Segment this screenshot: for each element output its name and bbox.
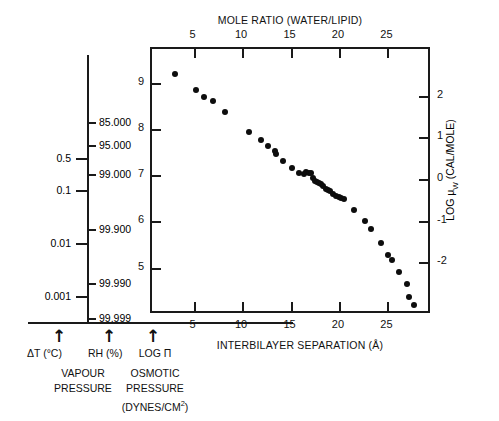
y2-axis-tick — [419, 262, 428, 264]
right-axis-title-unit: (CAL/MOLE) — [444, 119, 456, 182]
y-axis-tick — [152, 83, 161, 85]
y2-axis-tick-label: -2 — [437, 255, 447, 266]
osmotic-axis-name: LOG Π — [108, 347, 202, 360]
data-point — [246, 129, 252, 135]
vapour-pressure-baseline — [28, 322, 293, 324]
data-point — [404, 281, 410, 287]
data-point — [193, 87, 199, 93]
y-axis-tick — [152, 129, 161, 131]
y2-axis-tick-label: 0 — [437, 172, 443, 183]
x-axis-tick-label: 25 — [380, 319, 392, 330]
rh-tick — [87, 122, 96, 124]
data-point — [265, 143, 271, 149]
data-point — [273, 151, 279, 157]
data-point — [280, 158, 286, 164]
x2-axis-tick-label: 5 — [190, 29, 196, 40]
delta-t-tick-label: 0.01 — [51, 238, 71, 249]
data-point — [258, 137, 264, 143]
data-point — [406, 294, 412, 300]
osmotic-units-suffix: ) — [185, 401, 189, 413]
x2-axis-tick — [194, 49, 196, 58]
data-point — [222, 109, 228, 115]
rh-tick-label: 99.900 — [99, 224, 131, 235]
x-axis-tick — [291, 302, 293, 311]
y-axis-tick — [152, 175, 161, 177]
delta-t-tick-label: 0.001 — [45, 291, 71, 302]
rh-arrow-icon: ↑ — [98, 328, 120, 346]
delta-t-tick-label: 0.1 — [56, 185, 71, 196]
rh-tick — [87, 229, 96, 231]
data-point — [210, 98, 216, 104]
delta-t-tick — [76, 243, 87, 245]
y-axis-tick-label: 5 — [138, 261, 144, 272]
y2-axis-tick — [419, 96, 428, 98]
y2-axis-tick-label: 2 — [437, 89, 443, 100]
y2-axis-tick — [419, 137, 428, 139]
figure-root: 85.000 95.000 99.000 99.900 99.990 99.99… — [0, 0, 499, 421]
y-axis-tick-label: 8 — [138, 122, 144, 133]
rh-tick — [87, 318, 96, 320]
data-point — [389, 257, 395, 263]
y-axis-tick — [152, 221, 161, 223]
x-axis-tick-label: 20 — [332, 319, 344, 330]
x-axis-tick-label: 15 — [283, 319, 295, 330]
rh-tick — [87, 145, 96, 147]
rh-tick-label: 99.999 — [99, 313, 131, 324]
x2-axis-tick-label: 15 — [283, 29, 295, 40]
x-axis-tick-label: 5 — [190, 319, 196, 330]
x2-axis-tick-label: 10 — [235, 29, 247, 40]
x2-axis-tick — [242, 49, 244, 58]
rh-tick-label: 85.000 — [99, 117, 131, 128]
x2-axis-tick-label: 25 — [380, 29, 392, 40]
y2-axis-tick-label: 1 — [437, 130, 443, 141]
y2-axis-tick-label: -1 — [437, 214, 447, 225]
delta-t-tick — [76, 158, 87, 160]
x-axis-tick — [339, 302, 341, 311]
data-point — [172, 71, 178, 77]
data-point — [368, 226, 374, 232]
data-point — [341, 196, 347, 202]
x-axis-tick-label: 10 — [235, 319, 247, 330]
x2-axis-tick — [387, 49, 389, 58]
top-axis-title: MOLE RATIO (WATER/LIPID) — [218, 14, 363, 26]
x2-axis-tick — [291, 49, 293, 58]
x2-axis-tick-label: 20 — [332, 29, 344, 40]
y-axis-tick-label: 9 — [138, 76, 144, 87]
bottom-axis-title: INTERBILAYER SEPARATION (Å) — [217, 339, 383, 351]
osmotic-pressure-arrow-icon: ↑ — [142, 328, 164, 346]
x2-axis-tick — [339, 49, 341, 58]
data-point — [351, 207, 357, 213]
data-point — [201, 94, 207, 100]
osmotic-pressure-units: (DYNES/CM2) — [98, 397, 212, 414]
right-axis-title-sub: W — [451, 182, 460, 190]
delta-t-tick — [76, 296, 87, 298]
right-axis-title: LOG μW (CAL/MOLE) — [444, 119, 459, 221]
data-point — [411, 302, 417, 308]
y2-axis-tick — [419, 221, 428, 223]
data-point — [362, 218, 368, 224]
data-point — [396, 269, 402, 275]
y-axis-tick-label: 7 — [138, 168, 144, 179]
data-point — [378, 240, 384, 246]
scatter-plot-frame — [150, 47, 430, 313]
x-axis-tick — [387, 302, 389, 311]
delta-t-tick — [76, 190, 87, 192]
x-axis-tick — [194, 302, 196, 311]
osmotic-pressure-title-line1: OSMOTIC — [108, 367, 202, 380]
data-point — [289, 165, 295, 171]
delta-t-arrow-icon: ↑ — [48, 328, 70, 346]
y-axis-tick — [152, 268, 161, 270]
rh-tick-label: 99.000 — [99, 169, 131, 180]
y2-axis-tick — [419, 179, 428, 181]
plot-data-layer — [152, 49, 428, 311]
rh-tick-label: 95.000 — [99, 140, 131, 151]
delta-t-axis-name: ΔT (°C) — [27, 347, 62, 360]
rh-tick-label: 99.990 — [99, 278, 131, 289]
rh-tick — [87, 283, 96, 285]
x-axis-tick — [242, 302, 244, 311]
y-axis-tick-label: 6 — [138, 214, 144, 225]
delta-t-tick-label: 0.5 — [56, 153, 71, 164]
osmotic-units-prefix: (DYNES/CM — [122, 401, 181, 413]
osmotic-pressure-title-line2: PRESSURE — [108, 382, 202, 395]
rh-tick — [87, 174, 96, 176]
